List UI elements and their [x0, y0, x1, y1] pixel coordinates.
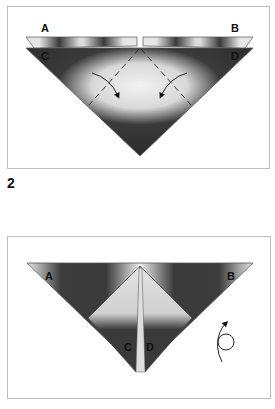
- label-a: A: [41, 22, 49, 34]
- label-c: C: [124, 341, 132, 353]
- step2-figure: A B C D: [27, 263, 253, 372]
- large-triangle: [26, 48, 253, 156]
- origami-diagram: A B C D A B C D: [0, 0, 275, 409]
- label-c: C: [41, 50, 49, 62]
- step1-figure: A B C D: [26, 22, 253, 156]
- label-b: B: [231, 22, 239, 34]
- label-d: D: [146, 341, 154, 353]
- label-a: A: [45, 270, 53, 282]
- right-flap: [143, 37, 253, 48]
- label-b: B: [227, 270, 235, 282]
- label-d: D: [231, 50, 239, 62]
- left-flap: [26, 37, 137, 48]
- turn-over-icon: [217, 323, 234, 362]
